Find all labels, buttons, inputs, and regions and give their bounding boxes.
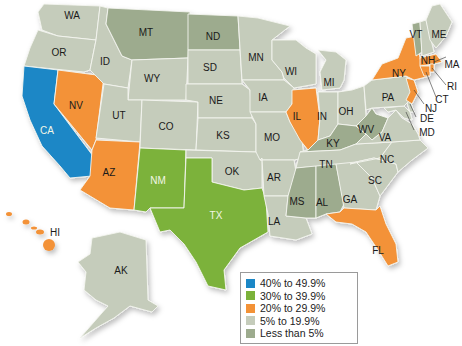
legend-item: 40% to 49.9% xyxy=(246,277,357,290)
state-pa[interactable] xyxy=(364,76,412,110)
map-legend: 40% to 49.9% 30% to 39.9% 20% to 29.9% 5… xyxy=(240,272,358,344)
state-sd[interactable] xyxy=(188,50,242,84)
state-hi[interactable] xyxy=(6,212,55,251)
legend-item: 30% to 39.9% xyxy=(246,290,357,303)
state-nd[interactable] xyxy=(188,14,240,50)
legend-swatch xyxy=(246,291,255,300)
legend-swatch xyxy=(246,279,255,288)
legend-label: 30% to 39.9% xyxy=(260,290,325,302)
legend-label: 40% to 49.9% xyxy=(260,277,325,289)
state-co[interactable] xyxy=(140,100,198,150)
legend-label: Less than 5% xyxy=(260,327,324,339)
state-ak[interactable] xyxy=(78,232,158,338)
legend-label: 5% to 19.9% xyxy=(260,315,320,327)
legend-item: 5% to 19.9% xyxy=(246,315,357,328)
state-nm[interactable] xyxy=(134,148,186,212)
legend-swatch xyxy=(246,316,255,325)
legend-swatch xyxy=(246,329,255,338)
state-ks[interactable] xyxy=(196,118,256,152)
legend-swatch xyxy=(246,304,255,313)
state-ia[interactable] xyxy=(242,80,294,112)
state-wy[interactable] xyxy=(128,58,188,100)
legend-label: 20% to 29.9% xyxy=(260,302,325,314)
state-fl[interactable] xyxy=(326,206,398,266)
legend-item: Less than 5% xyxy=(246,327,357,340)
state-mi[interactable] xyxy=(318,50,346,90)
us-choropleth-map xyxy=(0,0,462,346)
legend-item: 20% to 29.9% xyxy=(246,302,357,315)
